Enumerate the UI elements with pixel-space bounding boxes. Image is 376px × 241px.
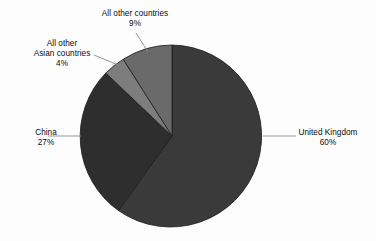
pie-label-all-other-asian-countries-name-line1: All other xyxy=(47,39,78,48)
pie-label-united-kingdom-name: United Kingdom xyxy=(299,128,358,137)
pie-label-all-other-asian-countries: All other Asian countries 4% xyxy=(6,39,118,70)
leader-line-all-other-countries xyxy=(136,33,148,52)
pie-label-all-other-asian-countries-name-line2: Asian countries xyxy=(6,49,118,59)
pie-label-china: China 27% xyxy=(6,128,86,148)
pie-label-all-other-countries: All other countries 9% xyxy=(72,9,198,29)
pie-label-all-other-asian-countries-percent: 4% xyxy=(6,59,118,69)
pie-label-china-name: China xyxy=(35,128,57,137)
pie-chart-figure: All other countries 9% All other Asian c… xyxy=(0,0,376,241)
pie-label-all-other-countries-percent: 9% xyxy=(72,19,198,29)
pie-label-united-kingdom-percent: 60% xyxy=(282,138,374,148)
pie-label-china-percent: 27% xyxy=(6,138,86,148)
pie-label-all-other-countries-name: All other countries xyxy=(102,9,168,18)
pie-chart-svg xyxy=(0,0,376,241)
pie-label-united-kingdom: United Kingdom 60% xyxy=(282,128,374,148)
